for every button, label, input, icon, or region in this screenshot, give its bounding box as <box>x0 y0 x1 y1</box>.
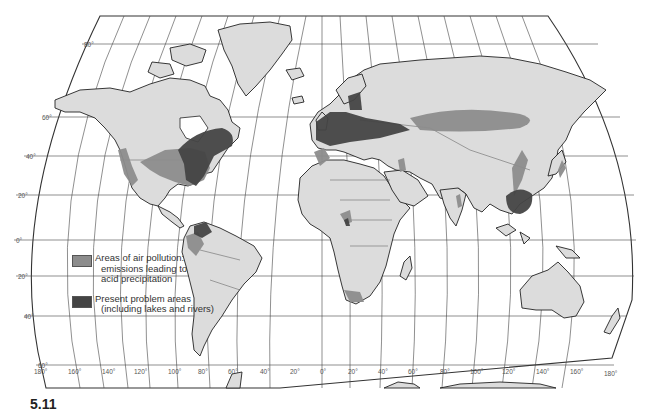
svg-text:180°: 180° <box>604 370 618 377</box>
svg-text:60°: 60° <box>228 368 238 375</box>
svg-text:100°: 100° <box>168 368 182 375</box>
svg-text:100°: 100° <box>470 368 484 375</box>
problem-areas-swatch <box>72 296 92 308</box>
land-masses <box>55 22 620 388</box>
legend-item-problem-areas: Present problem areas (including lakes a… <box>72 294 302 315</box>
svg-text:60°: 60° <box>408 368 418 375</box>
legend-label-air-pollution: Areas of air pollution: emissions leadin… <box>95 253 187 285</box>
air-pollution-swatch <box>72 255 92 267</box>
legend-label-problem-areas: Present problem areas (including lakes a… <box>95 294 214 315</box>
svg-text:80°: 80° <box>440 368 450 375</box>
svg-text:0°: 0° <box>16 237 23 244</box>
svg-text:140°: 140° <box>536 368 550 375</box>
svg-text:120°: 120° <box>134 368 148 375</box>
svg-text:40°: 40° <box>378 368 388 375</box>
svg-text:20°: 20° <box>18 273 28 280</box>
svg-text:60°: 60° <box>42 114 52 121</box>
svg-text:80°: 80° <box>84 41 94 48</box>
svg-text:160°: 160° <box>68 368 82 375</box>
greenland <box>218 22 292 96</box>
svg-text:20°: 20° <box>18 192 28 199</box>
svg-text:40°: 40° <box>24 313 34 320</box>
svg-text:120°: 120° <box>502 368 516 375</box>
svg-text:0°: 0° <box>320 368 327 375</box>
svg-text:20°: 20° <box>290 368 300 375</box>
svg-text:180°: 180° <box>34 368 48 375</box>
longitude-labels: 180° 160° 140° 120° 100° 80° 60° 40° 20°… <box>34 368 618 377</box>
figure-label: 5.11 <box>30 396 56 412</box>
india <box>440 188 466 226</box>
map-legend: Areas of air pollution: emissions leadin… <box>72 253 302 324</box>
legend-item-air-pollution: Areas of air pollution: emissions leadin… <box>72 253 302 285</box>
svg-text:20°: 20° <box>348 368 358 375</box>
svg-text:40°: 40° <box>260 368 270 375</box>
svg-text:80°: 80° <box>198 368 208 375</box>
svg-text:40°: 40° <box>26 153 36 160</box>
svg-text:140°: 140° <box>102 368 116 375</box>
svg-text:160°: 160° <box>570 368 584 375</box>
